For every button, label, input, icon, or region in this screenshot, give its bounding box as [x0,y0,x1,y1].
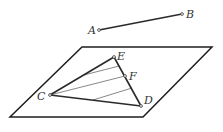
point-c [49,94,52,97]
parallel-line-upper [84,66,119,75]
segment-cd [50,95,141,106]
point-e [113,56,116,59]
label-b: B [185,8,194,21]
label-a: A [87,24,96,37]
point-b [181,13,184,16]
label-c: C [37,90,46,103]
segment-ce [50,57,114,95]
parallel-line-lower [93,88,132,100]
point-a [98,29,101,32]
segment-ab [99,14,182,30]
label-e: E [116,50,125,63]
label-d: D [143,94,153,107]
point-f [124,75,127,78]
point-d [140,105,143,108]
label-f: F [128,70,137,83]
segment-cf [50,76,125,95]
segment-ed [114,57,141,106]
plane [10,47,212,117]
geometry-diagram: A B C E F D [0,0,223,132]
